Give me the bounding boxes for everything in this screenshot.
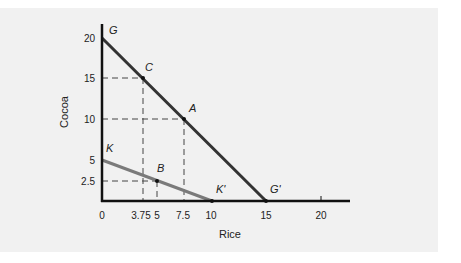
point-k-prime xyxy=(210,199,214,203)
point-b xyxy=(155,179,159,183)
label-k: K xyxy=(106,142,114,154)
guide-lines xyxy=(102,78,184,201)
y-tick-5: 5 xyxy=(89,155,95,166)
x-axis-label: Rice xyxy=(219,228,241,240)
y-tick-20: 20 xyxy=(84,33,96,44)
x-tick-7-5: 7.5 xyxy=(176,210,190,221)
label-b: B xyxy=(157,162,164,174)
x-tick-3-75: 3.75 xyxy=(131,210,151,221)
x-tick-20: 20 xyxy=(315,210,327,221)
x-tick-10: 10 xyxy=(205,210,217,221)
point-c xyxy=(141,76,145,80)
label-k-prime: K' xyxy=(216,183,226,195)
label-g-prime: G' xyxy=(270,183,282,195)
y-tick-15: 15 xyxy=(84,73,96,84)
y-axis-label: Cocoa xyxy=(58,95,70,128)
label-a: A xyxy=(188,102,196,114)
x-tick-5: 5 xyxy=(154,210,160,221)
label-g: G xyxy=(109,24,118,36)
x-tick-15: 15 xyxy=(260,210,272,221)
y-tick-2-5: 2.5 xyxy=(81,176,95,187)
ppf-chart: 20 15 10 5 2.5 0 3.75 5 7.5 10 15 20 Ric… xyxy=(0,0,461,263)
x-tick-0: 0 xyxy=(99,210,105,221)
y-tick-10: 10 xyxy=(84,114,96,125)
point-a xyxy=(182,117,186,121)
point-g-prime xyxy=(264,199,268,203)
label-c: C xyxy=(145,61,153,73)
